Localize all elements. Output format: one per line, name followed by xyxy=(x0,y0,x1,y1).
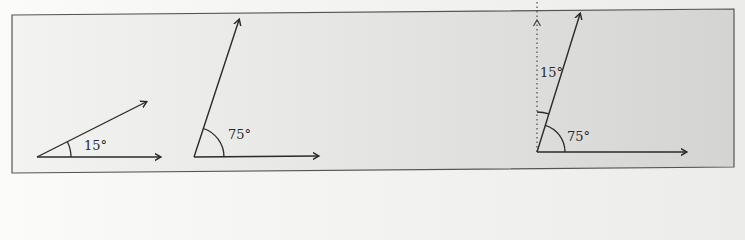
figure-frame xyxy=(12,9,734,173)
angle-label: 75° xyxy=(567,129,590,144)
base-ray xyxy=(194,156,318,157)
angle-label: 75° xyxy=(228,127,251,142)
angle-label: 15° xyxy=(84,138,107,153)
complement-angle-label: 15° xyxy=(540,65,563,80)
angle-diagrams-figure: 15° 75° 15° 75° xyxy=(0,0,745,177)
